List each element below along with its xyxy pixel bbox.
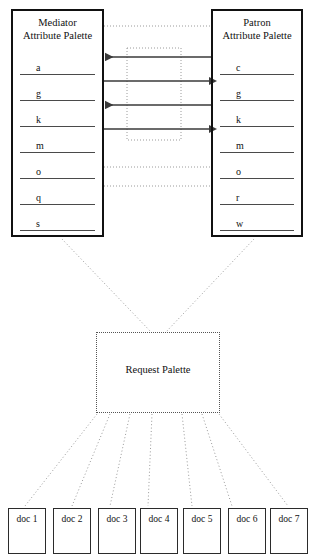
request-palette[interactable]: Request Palette bbox=[96, 332, 220, 413]
patron-to-request-line bbox=[166, 239, 254, 332]
document-label: doc 7 bbox=[271, 514, 307, 524]
patron-attribute-list: c g k m o r w bbox=[220, 49, 294, 231]
document-label: doc 2 bbox=[54, 514, 90, 524]
request-to-doc-7-line bbox=[219, 414, 288, 506]
document-label: doc 6 bbox=[229, 514, 265, 524]
patron-attribute-label: w bbox=[236, 218, 243, 229]
dotted-horizontal-connectors bbox=[104, 26, 211, 186]
patron-attribute-label: r bbox=[236, 192, 239, 203]
mediator-palette-title: Mediator Attribute Palette bbox=[13, 17, 102, 42]
palette-to-request-connectors bbox=[62, 239, 254, 332]
request-to-doc-6-line bbox=[202, 414, 232, 506]
patron-palette-title: Patron Attribute Palette bbox=[213, 17, 301, 42]
mediator-attribute-row[interactable]: g bbox=[20, 75, 95, 101]
document-box-7[interactable]: doc 7 bbox=[270, 508, 308, 554]
patron-attribute-row[interactable]: c bbox=[220, 49, 294, 75]
mediator-title-line-2: Attribute Palette bbox=[13, 30, 102, 43]
document-box-1[interactable]: doc 1 bbox=[8, 508, 46, 554]
mediator-title-line-1: Mediator bbox=[13, 17, 102, 30]
mediator-attribute-row[interactable]: q bbox=[20, 179, 95, 205]
patron-attribute-label: g bbox=[236, 88, 241, 99]
patron-attribute-row[interactable]: r bbox=[220, 179, 294, 205]
patron-attribute-row[interactable]: g bbox=[220, 75, 294, 101]
patron-attribute-palette[interactable]: Patron Attribute Palette c g k m o r bbox=[211, 9, 303, 237]
request-to-doc-5-line bbox=[182, 414, 192, 506]
request-to-doc-4-line bbox=[148, 414, 152, 506]
mediator-to-request-line bbox=[62, 239, 151, 332]
patron-attribute-row[interactable]: w bbox=[220, 205, 294, 231]
mediator-attribute-label: m bbox=[36, 140, 44, 151]
patron-attribute-label: k bbox=[236, 114, 241, 125]
patron-title-line-1: Patron bbox=[213, 17, 301, 30]
attribute-exchange-arrows bbox=[104, 57, 211, 129]
mediator-attribute-label: q bbox=[36, 192, 41, 203]
mediator-attribute-label: g bbox=[36, 88, 41, 99]
mediator-attribute-row[interactable]: a bbox=[20, 49, 95, 75]
mediator-attribute-list: a g k m o q s bbox=[20, 49, 95, 231]
patron-attribute-row[interactable]: k bbox=[220, 101, 294, 127]
document-box-3[interactable]: doc 3 bbox=[98, 508, 136, 554]
mediator-attribute-label: o bbox=[36, 166, 41, 177]
mediator-attribute-row[interactable]: o bbox=[20, 153, 95, 179]
patron-attribute-label: c bbox=[236, 62, 240, 73]
mediator-attribute-label: a bbox=[36, 62, 40, 73]
dotted-overlay-rect bbox=[127, 48, 181, 140]
request-to-doc-3-line bbox=[110, 414, 130, 506]
mediator-attribute-label: s bbox=[36, 218, 40, 229]
document-label: doc 5 bbox=[184, 514, 220, 524]
mediator-attribute-row[interactable]: s bbox=[20, 205, 95, 231]
mediator-attribute-row[interactable]: m bbox=[20, 127, 95, 153]
request-to-doc-2-line bbox=[72, 414, 110, 506]
document-label: doc 3 bbox=[99, 514, 135, 524]
document-label: doc 1 bbox=[9, 514, 45, 524]
document-box-6[interactable]: doc 6 bbox=[228, 508, 266, 554]
request-to-docs-connectors bbox=[25, 414, 288, 506]
mediator-attribute-row[interactable]: k bbox=[20, 101, 95, 127]
document-label: doc 4 bbox=[141, 514, 177, 524]
patron-title-line-2: Attribute Palette bbox=[213, 30, 301, 43]
patron-attribute-row[interactable]: m bbox=[220, 127, 294, 153]
diagram-canvas: Mediator Attribute Palette a g k m o q bbox=[0, 0, 314, 560]
document-box-2[interactable]: doc 2 bbox=[53, 508, 91, 554]
request-palette-label: Request Palette bbox=[97, 364, 219, 375]
document-box-4[interactable]: doc 4 bbox=[140, 508, 178, 554]
document-box-5[interactable]: doc 5 bbox=[183, 508, 221, 554]
mediator-attribute-label: k bbox=[36, 114, 41, 125]
mediator-attribute-palette[interactable]: Mediator Attribute Palette a g k m o q bbox=[11, 9, 104, 237]
patron-attribute-label: m bbox=[236, 140, 244, 151]
patron-attribute-row[interactable]: o bbox=[220, 153, 294, 179]
patron-attribute-label: o bbox=[236, 166, 241, 177]
request-to-doc-1-line bbox=[25, 414, 97, 506]
